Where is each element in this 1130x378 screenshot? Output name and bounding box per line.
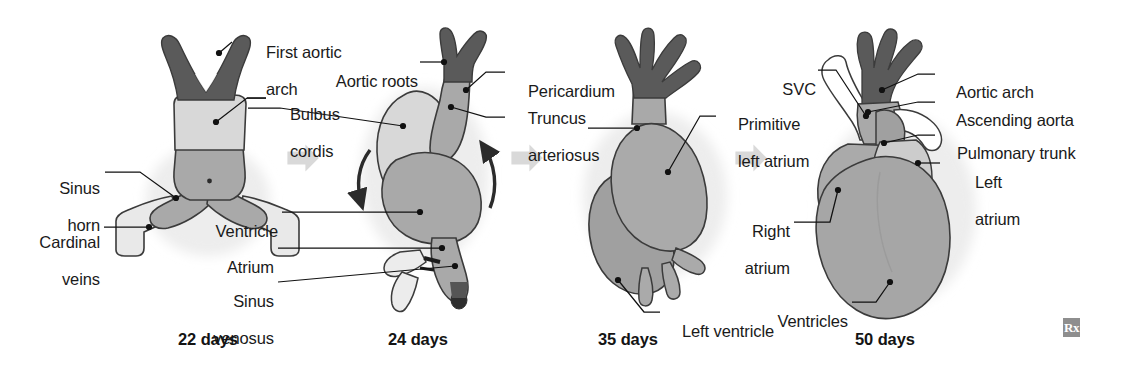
label-line: Aortic roots	[336, 72, 418, 90]
label-line: veins	[62, 270, 100, 288]
label-truncus-arteriosus: Truncus arteriosus	[510, 90, 599, 183]
rx-watermark-logo: Rx	[1063, 318, 1080, 337]
caption-22-days: 22 days	[178, 330, 238, 349]
label-line: Ventricle	[216, 222, 278, 240]
label-line: cordis	[290, 142, 333, 160]
label-line: Primitive	[738, 115, 800, 133]
label-line: atrium	[975, 210, 1020, 228]
label-line: Left	[975, 173, 1002, 191]
label-sinus-venosus: Sinus venosus	[178, 273, 274, 366]
label-line: SVC	[782, 80, 816, 98]
label-line: Right	[752, 222, 790, 240]
label-line: Cardinal	[39, 233, 100, 251]
label-line: atrium	[745, 259, 790, 277]
label-line: Ventricles	[777, 312, 848, 330]
label-aortic-roots: Aortic roots	[300, 53, 418, 109]
label-line: Truncus	[528, 109, 586, 127]
label-line: Sinus	[233, 292, 274, 310]
label-svc: SVC	[736, 61, 816, 117]
label-cardinal-veins: Cardinal veins	[0, 214, 100, 307]
caption-24-days: 24 days	[388, 330, 448, 349]
label-right-atrium: Right atrium	[690, 203, 790, 296]
label-line: Sinus	[59, 179, 100, 197]
heart-development-figure: First aortic arch Bulbus cordis Sinus ho…	[0, 0, 1130, 378]
label-ventricles: Ventricles	[752, 293, 848, 349]
label-line: arteriosus	[528, 146, 599, 164]
caption-50-days: 50 days	[855, 330, 915, 349]
label-left-atrium: Left atrium	[957, 154, 1020, 247]
label-line: left atrium	[738, 152, 809, 170]
caption-35-days: 35 days	[598, 330, 658, 349]
